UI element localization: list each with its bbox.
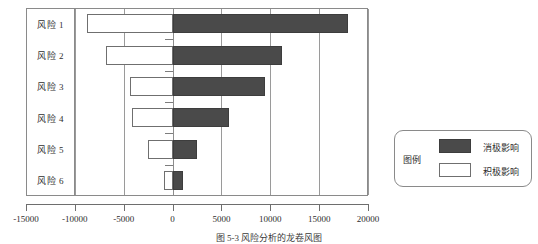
legend-swatch-positive-icon <box>439 163 471 177</box>
bar-positive-impact <box>87 14 173 33</box>
zero-axis-minor-tick <box>165 39 173 40</box>
bar-negative-impact <box>173 108 230 127</box>
x-axis-tick-label: 5000 <box>212 214 230 224</box>
x-axis-tick <box>75 204 76 211</box>
bar-row <box>26 140 368 159</box>
category-label-3: 风险 3 <box>26 80 75 93</box>
x-axis-tick-label: -15000 <box>13 214 39 224</box>
legend-box: 图例 消极影响 积极影响 <box>394 130 532 187</box>
gridline <box>221 9 222 195</box>
bar-row <box>26 46 368 65</box>
x-axis-tick-label: 10000 <box>259 214 282 224</box>
x-axis-line <box>26 204 368 205</box>
x-axis-tick <box>26 204 27 211</box>
category-axis <box>26 8 75 196</box>
legend-title: 图例 <box>403 153 421 166</box>
category-label-6: 风险 6 <box>26 174 75 187</box>
bar-row <box>26 14 368 33</box>
bar-negative-impact <box>173 14 349 33</box>
zero-axis-minor-tick <box>165 133 173 134</box>
x-axis-tick-label: 20000 <box>357 214 380 224</box>
gridline <box>124 9 125 195</box>
bar-row <box>26 171 368 190</box>
x-axis-tick <box>173 204 174 211</box>
x-axis-tick <box>221 204 222 211</box>
x-axis-tick <box>124 204 125 211</box>
gridline <box>270 9 271 195</box>
category-label-4: 风险 4 <box>26 112 75 125</box>
x-axis-tick-label: 15000 <box>308 214 331 224</box>
x-axis-tick <box>368 204 369 211</box>
x-axis-tick-label: -10000 <box>62 214 88 224</box>
bar-negative-impact <box>173 46 282 65</box>
zero-axis-minor-tick <box>165 71 173 72</box>
bar-positive-impact <box>106 46 172 65</box>
gridline <box>173 9 174 195</box>
figure-caption: 图 5-3 风险分析的龙卷风图 <box>0 231 538 244</box>
gridline <box>319 9 320 195</box>
x-axis-tick-label: -5000 <box>113 214 134 224</box>
plot-area <box>26 8 368 196</box>
category-label-2: 风险 2 <box>26 49 75 62</box>
bar-negative-impact <box>173 171 184 190</box>
bar-positive-impact <box>164 171 173 190</box>
category-label-1: 风险 1 <box>26 18 75 31</box>
x-axis-tick-label: 0 <box>170 214 175 224</box>
x-axis-tick <box>319 204 320 211</box>
gridline <box>368 9 369 195</box>
bar-positive-impact <box>148 140 172 159</box>
bar-negative-impact <box>173 77 266 96</box>
bar-positive-impact <box>132 108 173 127</box>
bar-row <box>26 108 368 127</box>
legend-swatch-negative-icon <box>439 139 471 153</box>
zero-axis-minor-tick <box>165 165 173 166</box>
x-axis-tick <box>270 204 271 211</box>
category-label-5: 风险 5 <box>26 143 75 156</box>
legend-label-negative: 消极影响 <box>483 141 519 154</box>
bar-positive-impact <box>130 77 173 96</box>
bar-row <box>26 77 368 96</box>
bar-negative-impact <box>173 140 197 159</box>
zero-axis-minor-tick <box>165 102 173 103</box>
legend-label-positive: 积极影响 <box>483 165 519 178</box>
